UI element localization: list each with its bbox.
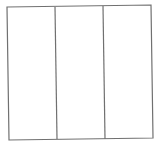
divider-line-2: [103, 6, 105, 139]
divider-line-1: [55, 7, 57, 139]
three-strip-rectangle-diagram: [0, 0, 162, 148]
outer-rectangle: [7, 5, 153, 140]
diagram-canvas: [0, 0, 162, 148]
